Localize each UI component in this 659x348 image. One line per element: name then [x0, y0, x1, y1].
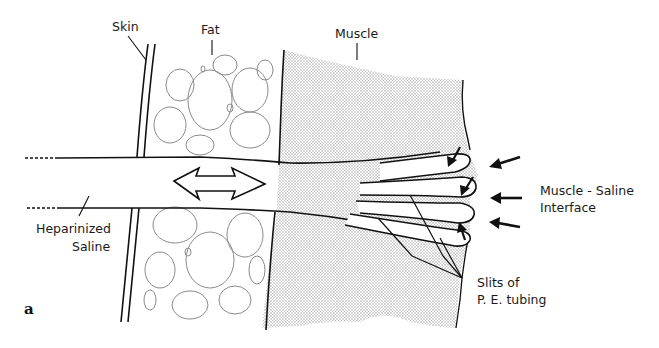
bidirectional-flow-arrow	[174, 168, 265, 199]
label-muscle-saline: Muscle - Saline	[540, 183, 634, 198]
panel-letter: a	[24, 300, 34, 318]
catheter-tissue-diagram: Skin Fat Muscle Heparinized Saline Muscl…	[0, 0, 659, 348]
label-skin: Skin	[112, 19, 139, 34]
diagram-drawing	[0, 0, 659, 348]
label-muscle: Muscle	[335, 26, 378, 41]
label-saline: Saline	[72, 239, 110, 254]
skin-layer	[121, 44, 155, 322]
label-fat: Fat	[201, 22, 220, 37]
label-pe-tubing: P. E. tubing	[477, 292, 546, 307]
label-heparinized: Heparinized	[36, 221, 111, 236]
label-interface: Interface	[540, 200, 596, 215]
label-slits-of: Slits of	[477, 275, 519, 290]
interface-arrows	[489, 157, 522, 229]
